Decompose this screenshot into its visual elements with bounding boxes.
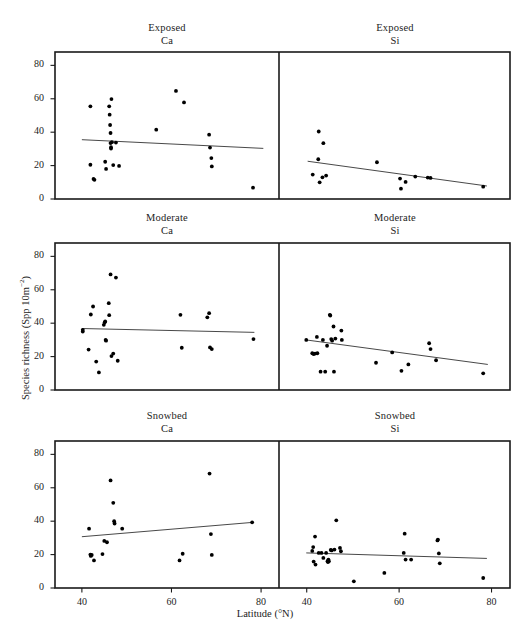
y-tick-label: 80 xyxy=(22,447,44,458)
data-point xyxy=(111,163,115,167)
data-point xyxy=(109,479,113,483)
data-point xyxy=(207,311,211,315)
data-point xyxy=(110,140,114,144)
panel-row-1 xyxy=(55,243,510,390)
data-point xyxy=(114,276,118,280)
y-tick-label: 80 xyxy=(22,58,44,69)
panel-row-0 xyxy=(55,52,510,199)
data-point xyxy=(107,313,111,317)
data-point xyxy=(311,545,315,549)
data-point xyxy=(390,351,394,355)
panel-data-exposed-si xyxy=(308,130,487,191)
data-point xyxy=(107,301,111,305)
data-point xyxy=(113,522,117,526)
y-tick-label: 40 xyxy=(22,125,44,136)
data-point xyxy=(180,346,184,350)
data-point xyxy=(332,370,336,374)
figure-panel-grid: Exposed Ca Exposed Si Moderate Ca Modera… xyxy=(0,0,530,636)
y-tick-label: 40 xyxy=(22,316,44,327)
data-point xyxy=(209,532,213,536)
y-tick-label: 60 xyxy=(22,481,44,492)
x-tick-label: 80 xyxy=(249,596,273,607)
data-point xyxy=(339,329,343,333)
x-tick-label: 60 xyxy=(387,596,411,607)
data-point xyxy=(481,371,485,375)
data-point xyxy=(88,163,92,167)
data-point xyxy=(409,558,413,562)
data-point xyxy=(310,549,314,553)
y-tick-label: 60 xyxy=(22,92,44,103)
data-point xyxy=(402,551,406,555)
data-point xyxy=(87,348,91,352)
data-point xyxy=(321,556,325,560)
data-point xyxy=(339,549,343,553)
data-point xyxy=(108,123,112,127)
data-point xyxy=(92,559,96,563)
data-point xyxy=(427,341,431,345)
data-point xyxy=(109,273,113,277)
data-point xyxy=(316,157,320,161)
trend-line xyxy=(306,553,487,559)
data-point xyxy=(97,371,101,375)
data-point xyxy=(333,337,337,341)
data-point xyxy=(116,359,120,363)
data-point xyxy=(333,548,337,552)
data-point xyxy=(313,535,317,539)
data-point xyxy=(251,186,255,190)
data-point xyxy=(111,501,115,505)
y-tick-label: 20 xyxy=(22,350,44,361)
data-point xyxy=(434,358,438,362)
data-point xyxy=(120,527,124,531)
data-point xyxy=(90,553,94,557)
data-point xyxy=(103,160,107,164)
y-tick-label: 40 xyxy=(22,514,44,525)
data-point xyxy=(320,551,324,555)
data-point xyxy=(110,97,114,101)
data-point xyxy=(104,167,108,171)
data-point xyxy=(89,313,93,317)
panel-frame-row-2 xyxy=(55,441,510,588)
data-point xyxy=(174,89,178,93)
data-point xyxy=(210,165,214,169)
data-point xyxy=(81,330,85,334)
data-point xyxy=(382,571,386,575)
data-point xyxy=(94,360,98,364)
panel-row-2 xyxy=(55,441,510,588)
data-point xyxy=(104,339,108,343)
data-point xyxy=(352,579,356,583)
data-point xyxy=(481,185,485,189)
data-point xyxy=(107,104,111,108)
scatter-plot-canvas xyxy=(0,0,530,636)
data-point xyxy=(338,546,342,550)
data-point xyxy=(304,338,308,342)
y-tick-label: 0 xyxy=(22,192,44,203)
data-point xyxy=(319,370,323,374)
y-tick-label: 20 xyxy=(22,159,44,170)
data-point xyxy=(250,520,254,524)
data-point xyxy=(327,559,331,563)
data-point xyxy=(101,552,105,556)
data-point xyxy=(324,174,328,178)
data-point xyxy=(109,131,113,135)
data-point xyxy=(210,553,214,557)
data-point xyxy=(374,361,378,365)
panel-data-moderate-ca xyxy=(81,273,255,375)
panel-data-moderate-si xyxy=(304,313,487,375)
panel-data-exposed-ca xyxy=(82,89,263,190)
data-point xyxy=(114,141,118,145)
data-point xyxy=(399,187,403,191)
data-point xyxy=(179,313,183,317)
x-tick-label: 80 xyxy=(480,596,504,607)
trend-line xyxy=(82,522,253,536)
y-tick-label: 0 xyxy=(22,581,44,592)
x-tick-label: 40 xyxy=(70,596,94,607)
x-tick-label: 60 xyxy=(159,596,183,607)
data-point xyxy=(209,156,213,160)
y-tick-label: 0 xyxy=(22,383,44,394)
data-point xyxy=(321,338,325,342)
data-point xyxy=(87,527,91,531)
data-point xyxy=(340,338,344,342)
data-point xyxy=(400,369,404,373)
data-point xyxy=(154,128,158,132)
data-point xyxy=(252,337,256,341)
